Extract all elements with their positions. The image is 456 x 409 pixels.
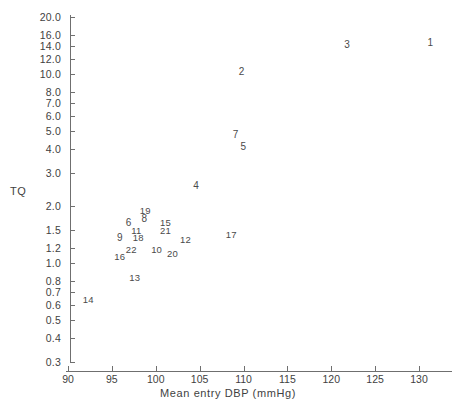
data-point-label: 3 (344, 40, 350, 50)
y-tick-label: 12.0 (21, 54, 61, 65)
y-tick-mark (70, 230, 75, 231)
data-point-label: 22 (126, 245, 137, 255)
y-tick-mark (70, 263, 75, 264)
y-tick-mark (70, 206, 75, 207)
x-tick-label: 115 (267, 374, 307, 385)
y-tick-mark (70, 59, 75, 60)
y-tick-mark (70, 149, 75, 150)
y-tick-mark (70, 305, 75, 306)
data-point-label: 18 (133, 233, 144, 243)
data-point-label: 4 (193, 181, 199, 191)
y-tick-mark (70, 173, 75, 174)
y-tick-mark (70, 292, 75, 293)
x-tick-label: 110 (224, 374, 264, 385)
x-tick-label: 130 (399, 374, 439, 385)
data-point-label: 17 (226, 230, 237, 240)
y-axis-line (70, 15, 71, 363)
y-tick-mark (70, 17, 75, 18)
x-tick-label: 125 (355, 374, 395, 385)
y-tick-label: 0.8 (21, 276, 61, 287)
y-tick-mark (70, 92, 75, 93)
y-tick-label: 6.0 (21, 111, 61, 122)
data-point-label: 10 (151, 245, 162, 255)
y-tick-label: 0.6 (21, 300, 61, 311)
data-point-label: 12 (180, 235, 191, 245)
data-point-label: 13 (129, 273, 140, 283)
y-tick-label: 0.7 (21, 287, 61, 298)
y-tick-mark (70, 362, 75, 363)
data-point-label: 5 (241, 142, 247, 152)
y-tick-label: 5.0 (21, 126, 61, 137)
y-tick-mark (70, 116, 75, 117)
y-tick-label: 2.0 (21, 201, 61, 212)
y-tick-label: 1.0 (21, 258, 61, 269)
y-axis-title: TQ (10, 186, 26, 197)
y-tick-label: 10.0 (21, 69, 61, 80)
x-tick-mark (375, 366, 376, 372)
y-tick-mark (70, 320, 75, 321)
x-tick-label: 90 (48, 374, 88, 385)
y-tick-mark (70, 281, 75, 282)
data-point-label: 2 (239, 67, 245, 77)
y-tick-label: 1.5 (21, 225, 61, 236)
y-tick-label: 14.0 (21, 41, 61, 52)
y-tick-label: 0.3 (21, 357, 61, 368)
data-point-label: 20 (167, 249, 178, 259)
x-tick-mark (156, 366, 157, 372)
x-tick-mark (287, 366, 288, 372)
x-axis-line (66, 371, 452, 372)
x-tick-label: 95 (92, 374, 132, 385)
y-tick-mark (70, 74, 75, 75)
y-tick-label: 1.2 (21, 243, 61, 254)
x-tick-label: 120 (311, 374, 351, 385)
y-tick-label: 3.0 (21, 168, 61, 179)
x-tick-mark (112, 366, 113, 372)
scatter-chart: TQ Mean entry DBP (mmHg) 20.016.014.012.… (0, 0, 456, 409)
y-tick-mark (70, 46, 75, 47)
x-tick-mark (244, 366, 245, 372)
y-tick-label: 8.0 (21, 87, 61, 98)
x-tick-mark (68, 366, 69, 372)
y-tick-label: 16.0 (21, 30, 61, 41)
data-point-label: 16 (114, 252, 125, 262)
data-point-label: 7 (233, 130, 239, 140)
data-point-label: 14 (83, 295, 94, 305)
x-tick-label: 100 (136, 374, 176, 385)
x-tick-mark (200, 366, 201, 372)
data-point-label: 19 (140, 206, 151, 216)
y-tick-mark (70, 35, 75, 36)
data-point-label: 9 (117, 233, 123, 243)
y-tick-mark (70, 248, 75, 249)
y-tick-label: 0.4 (21, 333, 61, 344)
x-tick-label: 105 (180, 374, 220, 385)
x-tick-mark (419, 366, 420, 372)
x-tick-mark (331, 366, 332, 372)
y-tick-label: 7.0 (21, 98, 61, 109)
y-tick-mark (70, 131, 75, 132)
y-tick-mark (70, 103, 75, 104)
y-tick-label: 0.5 (21, 315, 61, 326)
y-tick-mark (70, 338, 75, 339)
y-tick-label: 4.0 (21, 144, 61, 155)
data-point-label: 1 (428, 38, 434, 48)
y-tick-label: 20.0 (21, 12, 61, 23)
data-point-label: 21 (160, 226, 171, 236)
x-axis-title: Mean entry DBP (mmHg) (0, 388, 456, 399)
